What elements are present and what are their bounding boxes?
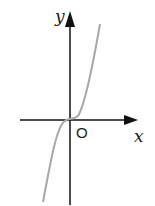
- function-graph: y x O: [0, 0, 155, 206]
- x-axis-label: x: [134, 126, 144, 146]
- y-axis-label: y: [55, 6, 65, 26]
- x-axis-arrow-icon: [124, 115, 138, 125]
- graph-canvas: [0, 0, 155, 206]
- y-axis-arrow-icon: [65, 11, 75, 27]
- cubic-curve: [43, 24, 100, 202]
- origin-label: O: [76, 124, 88, 141]
